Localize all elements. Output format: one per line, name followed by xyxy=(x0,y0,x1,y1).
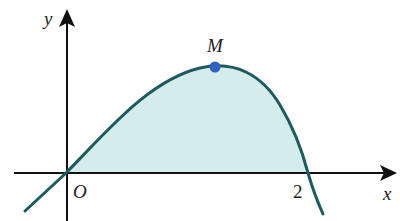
y-axis-label: y xyxy=(42,8,53,29)
x-axis-label: x xyxy=(382,183,392,204)
function-graph-diagram: y x O 2 M xyxy=(0,0,400,221)
point-M-marker xyxy=(210,62,221,73)
shaded-region xyxy=(66,66,308,173)
point-M-label: M xyxy=(206,35,224,56)
origin-label: O xyxy=(73,181,87,202)
x-tick-label-2: 2 xyxy=(293,181,303,202)
